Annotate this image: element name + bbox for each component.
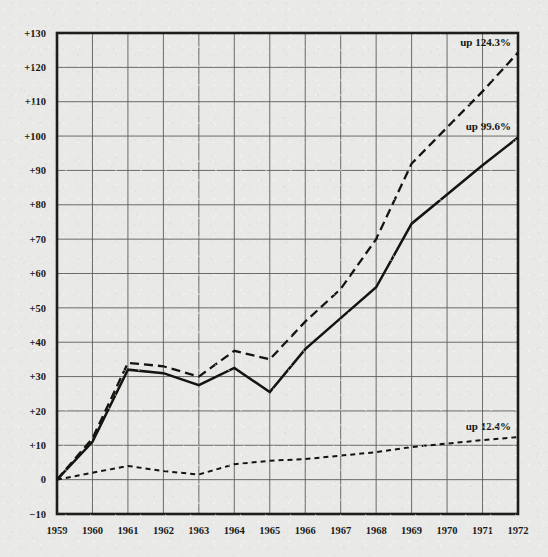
y-axis-tick-label: +80 bbox=[30, 199, 46, 210]
x-axis-tick-label: 1969 bbox=[401, 525, 422, 536]
series-line-dotted bbox=[57, 437, 518, 480]
y-axis-tick-label: +40 bbox=[30, 337, 46, 348]
y-axis-tick-label: −10 bbox=[30, 509, 46, 520]
x-axis-tick-label: 1966 bbox=[295, 525, 316, 536]
y-axis-tick-label: +120 bbox=[24, 62, 46, 73]
y-axis-tick-labels: −100+10+20+30+40+50+60+70+80+90+100+110+… bbox=[24, 28, 46, 520]
x-axis-tick-label: 1972 bbox=[508, 525, 529, 536]
series-end-annotations: up 124.3%up 99.6%up 12.4% bbox=[460, 36, 511, 432]
series-end-annotation: up 124.3% bbox=[460, 36, 511, 48]
x-axis-tick-label: 1961 bbox=[117, 525, 138, 536]
x-axis-tick-label: 1960 bbox=[82, 525, 103, 536]
y-axis-tick-label: +100 bbox=[24, 131, 46, 142]
x-axis-tick-label: 1970 bbox=[437, 525, 458, 536]
series-end-annotation: up 12.4% bbox=[466, 420, 511, 432]
y-axis-tick-label: +130 bbox=[24, 28, 46, 39]
horizontal-gridlines bbox=[57, 67, 518, 479]
x-axis-tick-labels: 1959196019611962196319641965196619671968… bbox=[47, 525, 529, 536]
y-axis-tick-label: +20 bbox=[30, 406, 46, 417]
x-axis-tick-label: 1971 bbox=[472, 525, 493, 536]
series-line-dashed bbox=[57, 53, 518, 480]
y-axis-tick-label: +30 bbox=[30, 371, 46, 382]
x-axis-tick-label: 1963 bbox=[188, 525, 209, 536]
line-chart: −100+10+20+30+40+50+60+70+80+90+100+110+… bbox=[0, 0, 548, 557]
x-axis-tick-label: 1964 bbox=[224, 525, 246, 536]
x-axis-tick-label: 1965 bbox=[259, 525, 280, 536]
y-axis-tick-label: 0 bbox=[41, 474, 46, 485]
chart-container: −100+10+20+30+40+50+60+70+80+90+100+110+… bbox=[0, 0, 548, 557]
y-axis-tick-label: +70 bbox=[30, 234, 46, 245]
series-end-annotation: up 99.6% bbox=[466, 120, 511, 132]
x-axis-tick-label: 1959 bbox=[47, 525, 68, 536]
y-axis-tick-label: +60 bbox=[30, 268, 46, 279]
x-axis-tick-label: 1967 bbox=[330, 525, 351, 536]
y-axis-tick-label: +10 bbox=[30, 440, 46, 451]
x-axis-tick-label: 1962 bbox=[153, 525, 174, 536]
x-axis-tick-label: 1968 bbox=[366, 525, 387, 536]
y-axis-tick-label: +50 bbox=[30, 303, 46, 314]
series-line-solid bbox=[57, 137, 518, 479]
data-series-layer bbox=[57, 53, 518, 480]
y-axis-tick-label: +110 bbox=[25, 96, 46, 107]
y-axis-tick-label: +90 bbox=[30, 165, 46, 176]
